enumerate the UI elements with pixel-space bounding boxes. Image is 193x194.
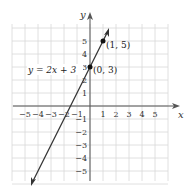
x-tick-label: 4 — [139, 110, 144, 119]
y-tick-label: −1 — [75, 115, 87, 124]
x-tick-label: −5 — [19, 110, 31, 119]
x-tick-label: −3 — [45, 110, 57, 119]
y-tick-label: −2 — [75, 128, 87, 137]
x-tick-labels: −5−4−3−2−112345 — [19, 110, 157, 119]
y-tick-label: −3 — [75, 141, 87, 150]
y-axis-label: y — [79, 9, 86, 20]
x-axis-label: x — [178, 109, 184, 120]
point-label-0-3: (0, 3) — [93, 65, 117, 75]
y-tick-label: −4 — [75, 154, 87, 163]
point-label-1-5: (1, 5) — [106, 40, 130, 50]
line-arrow-bottom-icon — [31, 177, 36, 186]
x-tick-label: 5 — [152, 110, 157, 119]
x-tick-label: −4 — [32, 110, 44, 119]
point-0-3 — [88, 65, 93, 70]
coordinate-plane: x y −5−4−3−2−112345 54321−1−2−3−4−5 (0, … — [0, 0, 193, 194]
y-tick-label: −5 — [75, 167, 87, 176]
y-tick-label: 4 — [82, 50, 87, 59]
y-tick-label: 5 — [82, 37, 87, 46]
equation-label: y = 2x + 3 — [27, 65, 76, 75]
line-arrow-top-icon — [104, 28, 109, 37]
x-tick-label: 3 — [126, 110, 131, 119]
x-tick-label: 1 — [100, 110, 105, 119]
line-y-2x-plus-3 — [33, 33, 107, 181]
x-tick-label: 2 — [113, 110, 118, 119]
point-1-5 — [101, 39, 106, 44]
y-tick-label: 1 — [82, 89, 87, 98]
